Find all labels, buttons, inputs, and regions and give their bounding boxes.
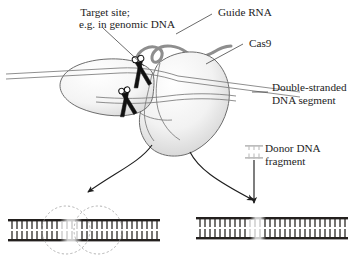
label-target-site-line1: Target site;: [80, 6, 130, 18]
label-target-site-line2: e.g. in genomic DNA: [79, 18, 175, 30]
label-cas9: Cas9: [249, 37, 272, 49]
label-dna-segment-line2: DNA segment: [272, 94, 337, 106]
label-donor-dna-line2: fragment: [265, 155, 306, 167]
label-guide-rna: Guide RNA: [218, 6, 272, 18]
label-donor-dna-line1: Donor DNA: [265, 142, 321, 154]
diagram-canvas: Target site; e.g. in genomic DNA Guide R…: [0, 0, 354, 255]
label-dna-segment-line1: Double-stranded: [272, 81, 347, 93]
crispr-cas9-diagram: Target site; e.g. in genomic DNA Guide R…: [0, 0, 354, 255]
